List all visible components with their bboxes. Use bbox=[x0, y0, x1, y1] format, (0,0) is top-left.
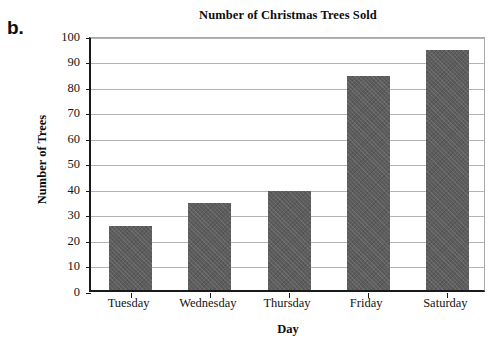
bar bbox=[347, 76, 390, 290]
y-axis-tick-label: 20 bbox=[40, 235, 80, 248]
x-axis-category-label: Saturday bbox=[395, 297, 494, 310]
bar bbox=[109, 226, 152, 290]
y-axis-tick-mark bbox=[86, 267, 91, 268]
plot-area bbox=[89, 37, 485, 292]
y-axis-tick-label: 0 bbox=[40, 286, 80, 299]
y-axis-tick-mark bbox=[86, 165, 91, 166]
y-axis-tick-mark bbox=[86, 63, 91, 64]
bar bbox=[188, 203, 231, 290]
y-axis-tick-mark bbox=[86, 38, 91, 39]
y-axis-tick-mark bbox=[86, 191, 91, 192]
y-axis-tick-label: 30 bbox=[40, 209, 80, 222]
y-axis-tick-label: 90 bbox=[40, 56, 80, 69]
y-axis-tick-label: 70 bbox=[40, 107, 80, 120]
y-axis-tick-label: 100 bbox=[40, 31, 80, 44]
bar-chart-figure: b. Number of Christmas Trees Sold Number… bbox=[0, 0, 494, 347]
y-axis-tick-label: 10 bbox=[40, 260, 80, 273]
y-axis-tick-mark bbox=[86, 140, 91, 141]
y-axis-tick-label: 50 bbox=[40, 158, 80, 171]
y-axis-tick-mark bbox=[86, 293, 91, 294]
y-axis-tick-mark bbox=[86, 242, 91, 243]
chart-title: Number of Christmas Trees Sold bbox=[88, 8, 488, 23]
bar bbox=[268, 191, 311, 290]
y-axis-tick-label: 60 bbox=[40, 133, 80, 146]
gridline bbox=[91, 293, 484, 294]
y-axis-tick-mark bbox=[86, 114, 91, 115]
bar-series bbox=[91, 38, 484, 290]
x-axis-title: Day bbox=[88, 322, 488, 337]
y-axis-tick-label: 40 bbox=[40, 184, 80, 197]
bar bbox=[426, 50, 469, 290]
y-axis-tick-mark bbox=[86, 89, 91, 90]
y-axis-tick-label: 80 bbox=[40, 82, 80, 95]
y-axis-tick-mark bbox=[86, 216, 91, 217]
part-label: b. bbox=[7, 18, 24, 37]
